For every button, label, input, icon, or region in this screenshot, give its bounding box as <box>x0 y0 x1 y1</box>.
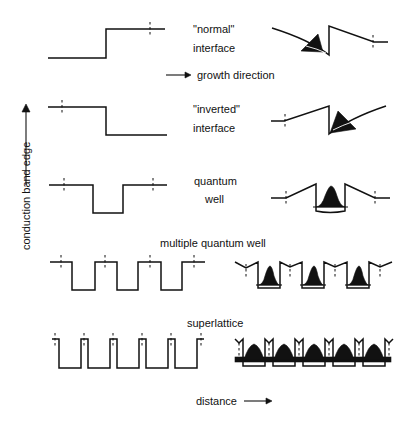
arrow-right-icon <box>266 398 272 404</box>
wavefunction-sl-3 <box>304 344 324 360</box>
electron-wavefunction-normal <box>301 34 323 52</box>
x-axis-label: distance <box>196 395 237 407</box>
step-up-profile <box>48 29 165 58</box>
superlattice-profile <box>52 339 204 368</box>
row-normal-interface: "normal" interface growth direction <box>48 22 388 81</box>
row-label-qw-1: quantum <box>194 175 237 187</box>
row-label-normal-2: interface <box>193 42 235 54</box>
row-label-mqw: multiple quantum well <box>160 237 266 249</box>
row-label-superlattice: superlattice <box>187 317 243 329</box>
row-label-inverted-2: interface <box>193 122 235 134</box>
wavefunction-sl-2 <box>274 344 294 360</box>
x-axis: distance <box>196 395 272 407</box>
row-multiple-quantum-well: multiple quantum well <box>50 237 392 290</box>
wavefunction-sl-4 <box>334 344 354 360</box>
arrow-right-icon <box>185 72 191 78</box>
row-superlattice: superlattice <box>52 317 393 368</box>
band-diagram-figure: conduction band edge "normal" interface … <box>0 0 418 426</box>
row-inverted-interface: "inverted" interface <box>48 100 386 135</box>
wavefunction-mqw-2 <box>303 266 323 285</box>
y-axis-label: conduction band edge <box>20 142 32 250</box>
row-label-normal-1: "normal" <box>193 23 235 35</box>
row-quantum-well: quantum well <box>49 175 390 213</box>
y-axis: conduction band edge <box>20 104 32 250</box>
square-well-profile <box>49 185 167 213</box>
growth-direction-label: growth direction <box>197 69 275 81</box>
bent-band-normal <box>272 26 388 55</box>
step-down-profile <box>48 107 167 135</box>
wavefunction-sl-1 <box>244 344 264 360</box>
arrow-up-icon <box>22 104 30 112</box>
wavefunction-mqw-1 <box>259 266 279 285</box>
mqw-profile <box>50 262 205 290</box>
wavefunction-mqw-3 <box>348 266 368 285</box>
bent-band-inverted <box>271 106 386 134</box>
row-label-qw-2: well <box>204 193 224 205</box>
wavefunction-sl-5 <box>364 344 384 360</box>
row-label-inverted-1: "inverted" <box>193 103 240 115</box>
electron-wavefunction-qw <box>316 186 345 207</box>
